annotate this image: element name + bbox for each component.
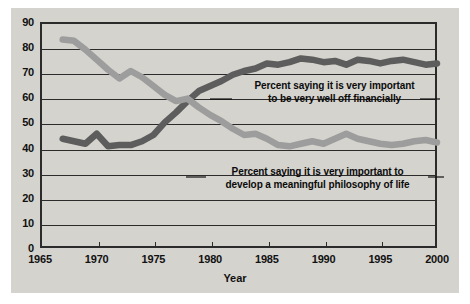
x-tick-label-2000: 2000 <box>425 253 449 265</box>
annotation-philosophy-line2: develop a meaningful philosophy of life <box>205 179 430 192</box>
annotation-financially-line2: to be very well off financially <box>232 93 437 106</box>
annotation-philosophy: Percent saying it is very important to d… <box>205 166 430 191</box>
annotation-financially: Percent saying it is very important to b… <box>232 80 437 105</box>
x-tick-label-1965: 1965 <box>28 253 52 265</box>
series-lines <box>0 0 470 304</box>
x-tick-label-1970: 1970 <box>85 253 109 265</box>
x-tick-label-1995: 1995 <box>368 253 392 265</box>
chart-figure: 9080706050403020100 19651970197519801985… <box>0 0 470 304</box>
annotation-financially-line1: Percent saying it is very important <box>232 80 437 93</box>
annotation-philosophy-line1: Percent saying it is very important to <box>205 166 430 179</box>
x-tick-label-1975: 1975 <box>142 253 166 265</box>
x-tick-label-1990: 1990 <box>312 253 336 265</box>
x-axis-title: Year <box>0 272 470 284</box>
x-tick-label-1985: 1985 <box>255 253 279 265</box>
x-tick-label-1980: 1980 <box>198 253 222 265</box>
